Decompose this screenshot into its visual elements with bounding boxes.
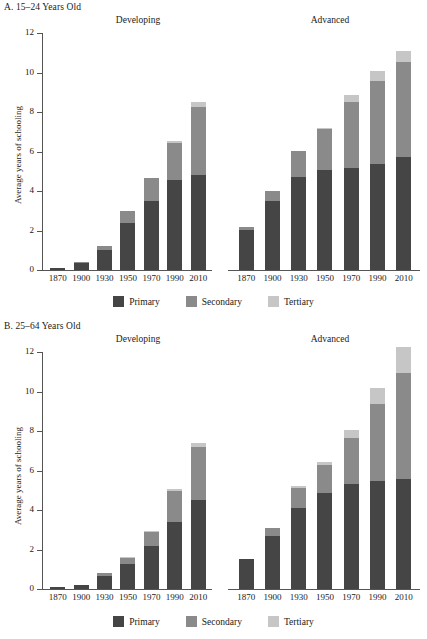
stacked-bar[interactable] [344, 95, 359, 270]
stacked-bar[interactable] [74, 585, 89, 589]
stacked-bar[interactable] [291, 486, 306, 589]
bar-segment-primary[interactable] [291, 508, 306, 589]
bar-segment-primary[interactable] [120, 564, 135, 589]
bar-segment-primary[interactable] [50, 587, 65, 589]
stacked-bar[interactable] [97, 246, 112, 270]
bar-segment-primary[interactable] [344, 168, 359, 270]
bar-segment-primary[interactable] [265, 536, 280, 589]
bar-segment-primary[interactable] [239, 559, 254, 589]
stacked-bar[interactable] [317, 462, 332, 589]
bar-segment-primary[interactable] [291, 177, 306, 270]
bar-segment-primary[interactable] [167, 180, 182, 270]
bar-segment-secondary[interactable] [344, 102, 359, 168]
stacked-bar[interactable] [50, 268, 65, 270]
legend-item-secondary[interactable]: Secondary [186, 616, 242, 627]
stacked-bar[interactable] [317, 128, 332, 270]
bar-segment-primary[interactable] [396, 479, 411, 589]
bar-slot[interactable] [391, 33, 417, 270]
stacked-bar[interactable] [265, 191, 280, 270]
bar-segment-secondary[interactable] [144, 532, 159, 546]
bar-segment-secondary[interactable] [291, 488, 306, 508]
bar-slot[interactable] [69, 352, 92, 589]
stacked-bar[interactable] [265, 528, 280, 589]
stacked-bar[interactable] [191, 443, 206, 589]
bar-segment-primary[interactable] [191, 175, 206, 270]
stacked-bar[interactable] [167, 489, 182, 589]
bar-segment-secondary[interactable] [317, 465, 332, 494]
bar-slot[interactable] [391, 352, 417, 589]
bar-slot[interactable] [140, 352, 163, 589]
bar-segment-secondary[interactable] [191, 107, 206, 175]
stacked-bar[interactable] [239, 559, 254, 589]
stacked-bar[interactable] [120, 557, 135, 589]
legend-item-primary[interactable]: Primary [113, 296, 160, 307]
bar-segment-primary[interactable] [191, 500, 206, 589]
bar-segment-secondary[interactable] [265, 191, 280, 201]
bar-segment-primary[interactable] [97, 250, 112, 270]
bar-slot[interactable] [259, 352, 285, 589]
bar-segment-primary[interactable] [265, 201, 280, 270]
bar-segment-secondary[interactable] [167, 491, 182, 522]
stacked-bar[interactable] [396, 347, 411, 589]
stacked-bar[interactable] [396, 51, 411, 270]
bar-slot[interactable] [69, 33, 92, 270]
bar-segment-primary[interactable] [370, 164, 385, 270]
stacked-bar[interactable] [239, 227, 254, 270]
bar-slot[interactable] [140, 33, 163, 270]
bar-slot[interactable] [187, 33, 210, 270]
bar-slot[interactable] [46, 352, 69, 589]
bar-slot[interactable] [312, 33, 338, 270]
bar-slot[interactable] [116, 33, 139, 270]
stacked-bar[interactable] [344, 430, 359, 589]
bar-segment-primary[interactable] [50, 268, 65, 270]
bar-segment-secondary[interactable] [265, 528, 280, 536]
bar-segment-primary[interactable] [74, 585, 89, 589]
bar-segment-secondary[interactable] [370, 81, 385, 164]
bar-segment-secondary[interactable] [144, 178, 159, 201]
bar-segment-tertiary[interactable] [370, 71, 385, 82]
bar-segment-primary[interactable] [370, 481, 385, 589]
stacked-bar[interactable] [74, 262, 89, 270]
bar-slot[interactable] [338, 33, 364, 270]
bar-slot[interactable] [364, 33, 390, 270]
bar-slot[interactable] [93, 33, 116, 270]
bar-slot[interactable] [93, 352, 116, 589]
legend-item-tertiary[interactable]: Tertiary [268, 296, 314, 307]
bar-slot[interactable] [46, 33, 69, 270]
bar-slot[interactable] [259, 33, 285, 270]
bar-segment-secondary[interactable] [396, 62, 411, 158]
stacked-bar[interactable] [144, 178, 159, 270]
bar-segment-secondary[interactable] [120, 211, 135, 223]
bar-slot[interactable] [312, 352, 338, 589]
bar-slot[interactable] [116, 352, 139, 589]
bar-segment-tertiary[interactable] [396, 347, 411, 373]
bar-segment-primary[interactable] [317, 170, 332, 270]
bar-segment-primary[interactable] [144, 546, 159, 589]
bar-segment-primary[interactable] [74, 263, 89, 270]
bar-segment-primary[interactable] [396, 157, 411, 270]
bar-segment-tertiary[interactable] [344, 430, 359, 438]
stacked-bar[interactable] [191, 102, 206, 270]
bar-segment-primary[interactable] [144, 201, 159, 270]
stacked-bar[interactable] [370, 388, 385, 589]
bar-segment-secondary[interactable] [317, 129, 332, 170]
bar-slot[interactable] [286, 352, 312, 589]
bar-segment-tertiary[interactable] [370, 388, 385, 405]
stacked-bar[interactable] [97, 573, 112, 589]
stacked-bar[interactable] [370, 71, 385, 270]
bar-segment-secondary[interactable] [191, 447, 206, 500]
legend-item-primary[interactable]: Primary [113, 616, 160, 627]
legend-item-tertiary[interactable]: Tertiary [268, 616, 314, 627]
stacked-bar[interactable] [291, 151, 306, 270]
bar-segment-primary[interactable] [120, 223, 135, 270]
bar-slot[interactable] [233, 33, 259, 270]
legend-item-secondary[interactable]: Secondary [186, 296, 242, 307]
bar-slot[interactable] [187, 352, 210, 589]
bar-segment-secondary[interactable] [291, 151, 306, 178]
bar-segment-primary[interactable] [344, 484, 359, 589]
stacked-bar[interactable] [50, 587, 65, 589]
bar-segment-secondary[interactable] [167, 143, 182, 181]
bar-segment-secondary[interactable] [344, 438, 359, 484]
bar-slot[interactable] [364, 352, 390, 589]
bar-slot[interactable] [163, 352, 186, 589]
